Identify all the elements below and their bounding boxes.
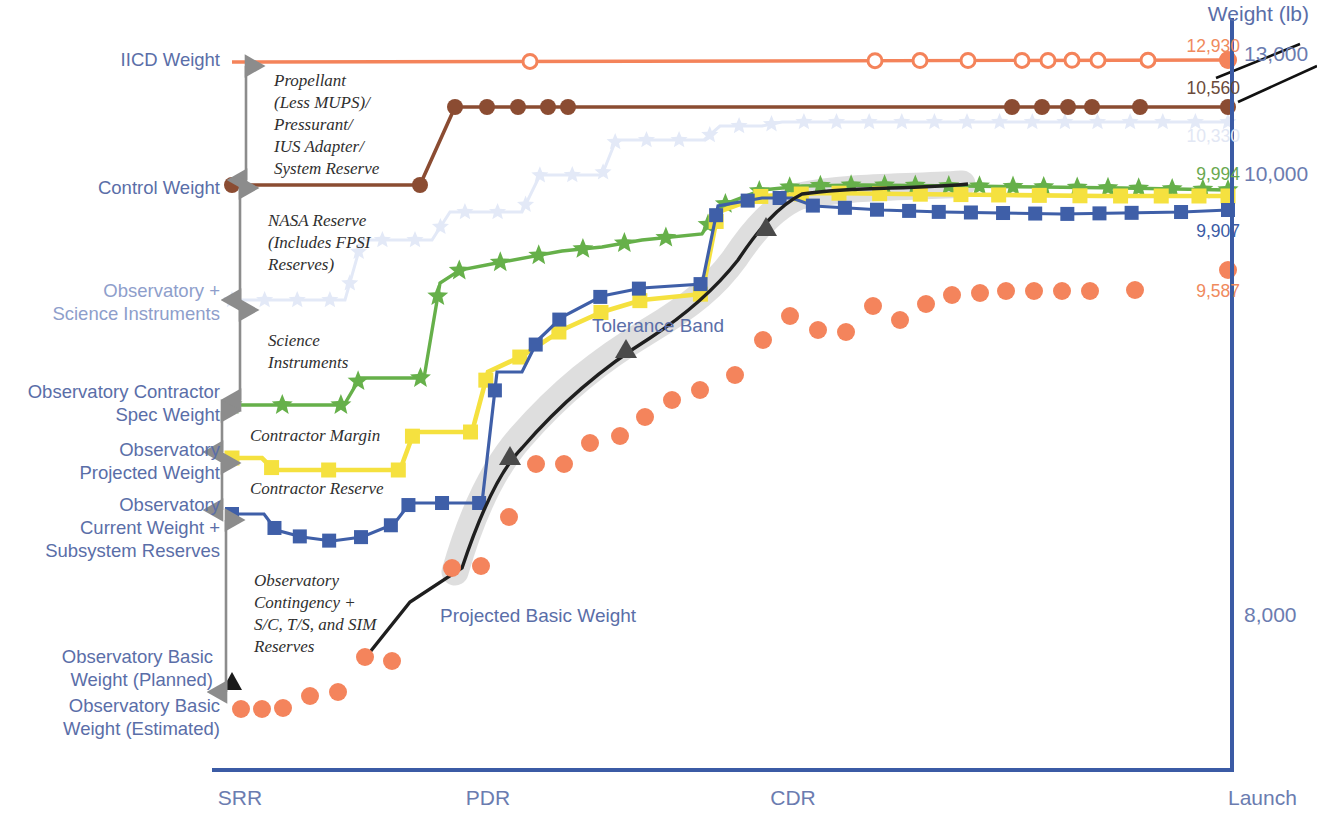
current-end-value: 9,907 bbox=[1130, 221, 1240, 242]
annotation-nasa-reserve-bracket: NASA Reserve(Includes FPSIReserves) bbox=[268, 210, 448, 276]
ghost-end-value: 10,330 bbox=[1130, 126, 1240, 147]
annotation-contractor-margin-bracket: Contractor Margin bbox=[250, 425, 430, 447]
series-label-current-weight: ObservatoryCurrent Weight +Subsystem Res… bbox=[0, 493, 220, 562]
series-label-projected-weight: ObservatoryProjected Weight bbox=[0, 438, 220, 484]
x-tick-1: PDR bbox=[458, 786, 518, 810]
annotation-science-inst-bracket: ScienceInstruments bbox=[268, 330, 448, 374]
x-tick-0: SRR bbox=[210, 786, 270, 810]
spec-end-value: 9,994 bbox=[1130, 164, 1240, 185]
series-label-basic-weight-planned: Observatory BasicWeight (Planned) bbox=[0, 645, 213, 691]
series-projected-basic-weight bbox=[366, 184, 968, 657]
x-tick-2: CDR bbox=[763, 786, 823, 810]
iicd-end-value: 12,930 bbox=[1130, 36, 1240, 57]
series-label-control-weight: Control Weight bbox=[28, 176, 220, 199]
annotation-propellant-bracket: Propellant(Less MUPS)/Pressurant/IUS Ada… bbox=[274, 70, 454, 180]
tolerance-band-label: Tolerance Band bbox=[592, 315, 724, 337]
control-end-value: 10,560 bbox=[1130, 78, 1240, 99]
tolerance-band bbox=[455, 184, 962, 572]
y-tick-1: 10,000 bbox=[1244, 162, 1308, 186]
series-iicd-weight bbox=[232, 51, 1237, 69]
bracket-arrows bbox=[222, 66, 246, 692]
y-tick-2: 8,000 bbox=[1244, 603, 1297, 627]
series-label-observatory-plus-si: Observatory +Science Instruments bbox=[0, 279, 220, 325]
chart-canvas: IICD WeightControl WeightObservatory +Sc… bbox=[0, 0, 1317, 813]
x-tick-3: Launch bbox=[1228, 786, 1288, 810]
annotation-observatory-contingency-bracket: ObservatoryContingency +S/C, T/S, and SI… bbox=[254, 570, 434, 658]
basic-end-value: 9,587 bbox=[1130, 281, 1240, 302]
series-label-contractor-spec-weight: Observatory ContractorSpec Weight bbox=[0, 380, 220, 426]
series-label-iicd-weight: IICD Weight bbox=[28, 48, 220, 71]
y-axis-title: Weight (lb) bbox=[1208, 2, 1309, 26]
projected-basic-weight-label: Projected Basic Weight bbox=[440, 605, 636, 627]
series-label-basic-weight-estimated: Observatory BasicWeight (Estimated) bbox=[0, 694, 220, 740]
y-tick-0: 13,000 bbox=[1244, 42, 1308, 66]
annotation-contractor-reserve-bracket: Contractor Reserve bbox=[250, 478, 430, 500]
